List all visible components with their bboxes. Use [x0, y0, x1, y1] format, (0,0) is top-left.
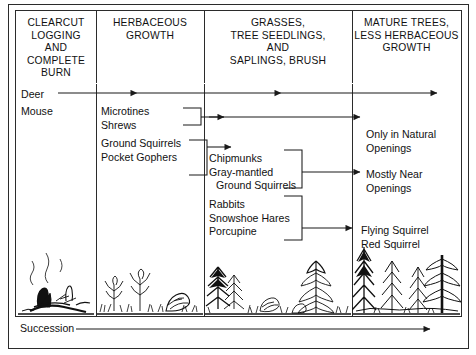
illustration-herbaceous-growth [96, 245, 204, 316]
header-line: GROWTH [126, 30, 174, 43]
header-line: BURN [41, 67, 71, 80]
species-chipmunks-gray-mantled: Chipmunks Gray-mantled Ground Squirrels [209, 152, 296, 193]
species-line: Mouse [21, 105, 53, 117]
header-line: GRASSES, [251, 17, 305, 30]
header-divider-1 [96, 11, 97, 83]
column-header-herbaceous: HERBACEOUS GROWTH [96, 11, 204, 83]
illustration-grasses-saplings [204, 245, 352, 316]
species-mouse: Mouse [21, 105, 53, 119]
species-line: Rabbits [209, 198, 245, 210]
header-line: GROWTH [382, 42, 430, 55]
illustration-mature-forest [352, 245, 461, 316]
column-header-clearcut: CLEARCUT LOGGING AND COMPLETE BURN [16, 11, 96, 83]
species-rabbits-hares-porcupine: Rabbits Snowshoe Hares Porcupine [209, 198, 290, 239]
species-line: Snowshoe Hares [209, 212, 290, 224]
header-line: SAPLINGS, BRUSH [230, 55, 326, 68]
species-line: Mostly Near [366, 168, 423, 180]
species-line: Ground Squirrels [101, 137, 181, 149]
header-line: LOGGING [31, 30, 80, 43]
illustration-clearcut-burn [16, 245, 96, 316]
species-line: Porcupine [209, 225, 257, 237]
species-deer: Deer [21, 88, 44, 102]
header-divider-2 [204, 11, 205, 83]
species-line: Flying Squirrel [361, 224, 429, 236]
note-mostly-near-openings: Mostly Near Openings [366, 168, 423, 195]
header-divider-3 [352, 11, 353, 83]
species-microtines-shrews: Microtines Shrews [101, 105, 149, 132]
species-line: Shrews [101, 119, 136, 131]
header-line: COMPLETE [27, 55, 85, 68]
succession-diagram: CLEARCUT LOGGING AND COMPLETE BURN HERBA… [0, 0, 476, 355]
succession-label: Succession [20, 322, 74, 335]
species-line: Chipmunks [209, 152, 262, 164]
header-line: AND [45, 42, 67, 55]
column-header-grasses-seedlings: GRASSES, TREE SEEDLINGS, AND SAPLINGS, B… [204, 11, 352, 83]
species-line: Only in Natural [366, 128, 436, 140]
species-line: Deer [21, 88, 44, 100]
header-line: HERBACEOUS [113, 17, 187, 30]
header-band: CLEARCUT LOGGING AND COMPLETE BURN HERBA… [16, 11, 461, 83]
species-line: Microtines [101, 105, 149, 117]
header-line: CLEARCUT [27, 17, 84, 30]
succession-footer: Succession [16, 318, 462, 348]
header-line: MATURE TREES, [364, 17, 449, 30]
species-line: Ground Squirrels [209, 179, 296, 193]
species-line: Pocket Gophers [101, 151, 177, 163]
species-line: Openings [366, 182, 411, 194]
species-line: Gray-mantled [209, 166, 273, 178]
species-line: Openings [366, 142, 411, 154]
column-header-mature-trees: MATURE TREES, LESS HERBACEOUS GROWTH [352, 11, 461, 83]
illustration-band [16, 245, 461, 316]
species-ground-squirrels-pocket-gophers: Ground Squirrels Pocket Gophers [101, 137, 181, 164]
header-line: AND [267, 42, 289, 55]
note-only-natural-openings: Only in Natural Openings [366, 128, 436, 155]
header-line: LESS HERBACEOUS [354, 30, 458, 43]
header-line: TREE SEEDLINGS, [230, 30, 325, 43]
